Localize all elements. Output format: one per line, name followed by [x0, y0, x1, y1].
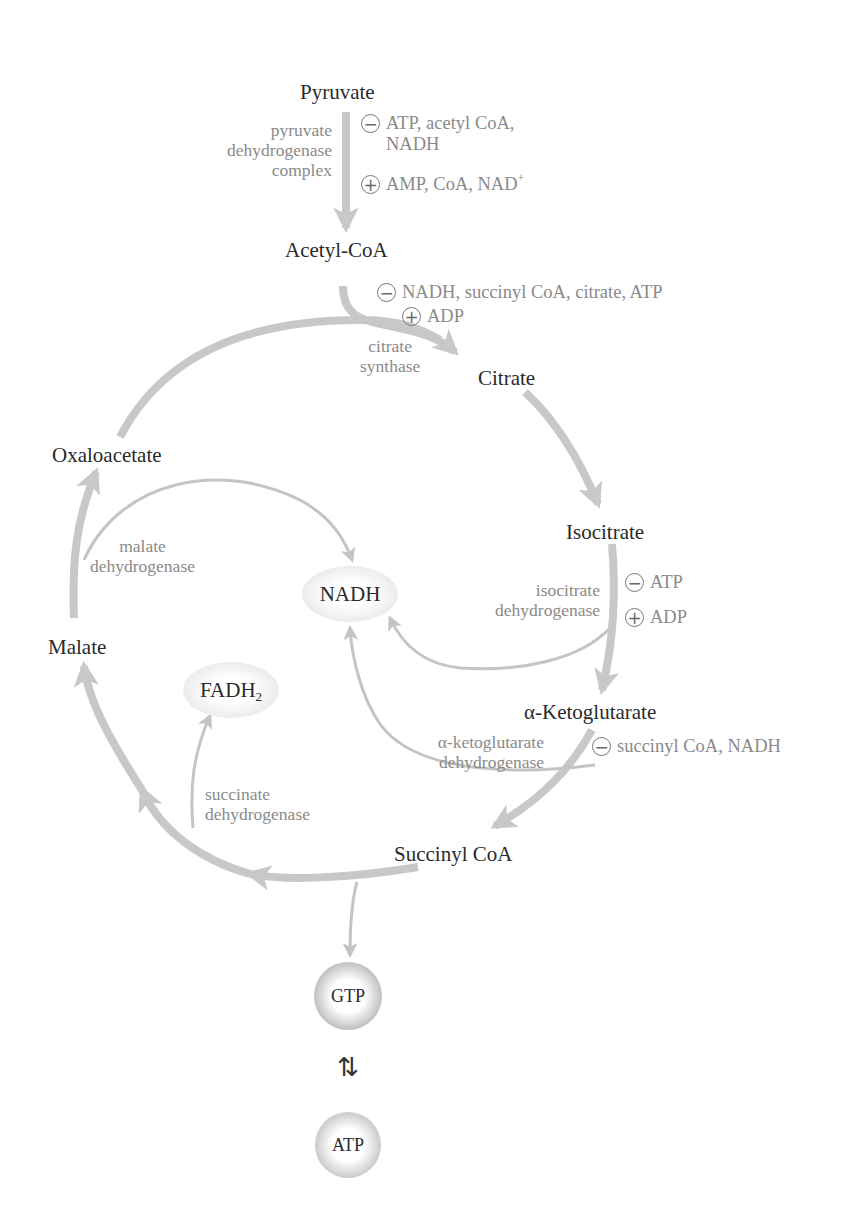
enzyme-alpha-ketoglutarate-dehydrogenase: α-ketoglutarate dehydrogenase: [438, 732, 544, 772]
metabolite-acetyl-coa: Acetyl-CoA: [285, 238, 388, 262]
minus-circle-icon: −: [592, 737, 611, 756]
product-gtp: GTP: [314, 962, 382, 1030]
arrow-isocitrate-to-akg: [602, 544, 614, 690]
product-label-base: FADH: [200, 678, 256, 702]
metabolite-citrate: Citrate: [478, 366, 535, 390]
product-nadh: NADH: [302, 566, 398, 622]
enzyme-label-line: α-ketoglutarate: [438, 732, 544, 752]
regulator-text: ATP, acetyl CoA,: [386, 113, 514, 134]
enzyme-isocitrate-dehydrogenase: isocitrate dehydrogenase: [495, 580, 600, 620]
metabolite-malate: Malate: [48, 635, 106, 659]
enzyme-label-line: malate: [90, 536, 195, 556]
enzyme-succinate-dehydrogenase: succinate dehydrogenase: [205, 784, 310, 824]
regulator-text: succinyl CoA, NADH: [617, 736, 781, 757]
regulator-text: ADP: [650, 607, 687, 628]
product-fadh2: FADH2: [183, 662, 279, 718]
metabolite-isocitrate: Isocitrate: [566, 520, 644, 544]
regulator-text: AMP, CoA, NAD: [386, 174, 518, 194]
equilibrium-arrows-icon: ⇅: [337, 1052, 359, 1082]
enzyme-label-line: complex: [227, 160, 332, 180]
metabolite-succinyl-coa: Succinyl CoA: [394, 842, 512, 866]
regulator-citrate-synthase-activators: + ADP: [402, 306, 464, 327]
metabolite-alpha-ketoglutarate: α-Ketoglutarate: [524, 700, 656, 724]
minus-circle-icon: −: [361, 114, 380, 133]
enzyme-label-line: dehydrogenase: [205, 804, 310, 824]
arrow-succinylcoa-to-malate: [250, 867, 418, 878]
enzyme-label-line: dehydrogenase: [90, 556, 195, 576]
regulator-text: NADH, succinyl CoA, citrate, ATP: [402, 282, 663, 303]
superscript-plus: +: [518, 171, 525, 185]
enzyme-pyruvate-dehydrogenase-complex: pyruvate dehydrogenase complex: [227, 120, 332, 180]
product-atp: ATP: [315, 1112, 381, 1178]
minus-circle-icon: −: [625, 573, 644, 592]
product-label: GTP: [331, 986, 365, 1007]
plus-circle-icon: +: [402, 307, 421, 326]
enzyme-citrate-synthase: citrate synthase: [360, 336, 420, 376]
arrow-fumarate-to-malate: [84, 666, 142, 790]
regulator-pdh-activators: + AMP, CoA, NAD+: [361, 174, 524, 195]
plus-circle-icon: +: [361, 175, 380, 194]
metabolite-pyruvate: Pyruvate: [300, 80, 375, 104]
product-label: NADH: [320, 582, 381, 607]
arrow-citrate-to-isocitrate: [525, 392, 598, 504]
enzyme-label-line: isocitrate: [495, 580, 600, 600]
regulator-text: NADH: [386, 134, 514, 155]
arrow-succinylcoa-to-gtp: [350, 882, 357, 955]
regulator-citrate-synthase-inhibitors: − NADH, succinyl CoA, citrate, ATP: [377, 282, 663, 303]
enzyme-label-line: citrate: [360, 336, 420, 356]
regulator-text: ATP: [650, 572, 683, 593]
enzyme-label-line: dehydrogenase: [227, 140, 332, 160]
enzyme-malate-dehydrogenase: malate dehydrogenase: [90, 536, 195, 576]
regulator-text: ADP: [427, 306, 464, 327]
product-label: FADH2: [200, 678, 262, 703]
enzyme-label-line: dehydrogenase: [438, 752, 544, 772]
plus-circle-icon: +: [625, 608, 644, 627]
minus-circle-icon: −: [377, 283, 396, 302]
regulator-isocitrate-dh-activators: + ADP: [625, 607, 687, 628]
enzyme-label-line: dehydrogenase: [495, 600, 600, 620]
regulator-akg-dh-inhibitors: − succinyl CoA, NADH: [592, 736, 781, 757]
metabolite-oxaloacetate: Oxaloacetate: [52, 443, 162, 467]
subscript-2: 2: [256, 689, 263, 704]
enzyme-label-line: pyruvate: [227, 120, 332, 140]
regulator-isocitrate-dh-inhibitors: − ATP: [625, 572, 683, 593]
enzyme-label-line: synthase: [360, 356, 420, 376]
arrow-idh-to-nadh: [390, 618, 610, 669]
product-label: ATP: [332, 1135, 364, 1156]
enzyme-label-line: succinate: [205, 784, 310, 804]
regulator-pdh-inhibitors: − ATP, acetyl CoA, NADH: [361, 113, 514, 156]
